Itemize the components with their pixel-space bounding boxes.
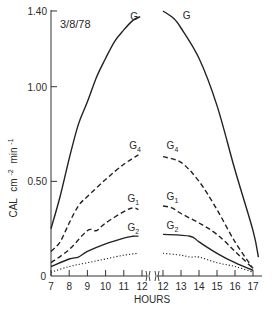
x-tick-label: 16 [229, 281, 241, 292]
svg-text:CAL cm -2: CAL cm -2 min -1 [4, 138, 19, 217]
x-tick-label: 8 [66, 281, 72, 292]
series-label-g1: G1 [167, 191, 179, 204]
series-label-g2: G2 [167, 220, 179, 233]
y-tick-label: 1.40 [28, 6, 48, 17]
y-label-exp2: -1 [7, 138, 14, 144]
series-label-g1: G1 [127, 193, 139, 206]
x-tick-label: 14 [193, 281, 205, 292]
y-axis-label: CAL cm -2 min -1 [4, 138, 19, 217]
y-label-unit1: cm [8, 178, 19, 191]
curve-g2-right [163, 234, 253, 270]
y-tick-label: 0 [40, 271, 46, 282]
y-tick-label: 1.00 [28, 82, 48, 93]
x-tick-label: 17 [247, 281, 259, 292]
curve-g1-right [163, 206, 253, 268]
x-axis-label: HOURS [134, 294, 170, 305]
curve-g2-left [51, 236, 138, 266]
x-tick-label: 12 [136, 281, 148, 292]
x-tick-label: 15 [211, 281, 223, 292]
x-tick-label: 7 [48, 281, 54, 292]
chart-svg: 00.501.001.40789101112121314151617 GGG4G… [0, 0, 272, 310]
curves [51, 11, 258, 272]
series-label-g4: G4 [129, 140, 141, 153]
curve-g-right [163, 11, 258, 257]
labels: GGG4G4G1G1G2G2 [127, 10, 190, 235]
curve-g4-left [51, 155, 138, 252]
x-tick-label: 9 [85, 281, 91, 292]
y-label-unit2: min [8, 147, 19, 163]
y-label-exp1: -2 [7, 169, 14, 175]
series-label-g2: G2 [127, 222, 139, 235]
x-tick-label: 10 [100, 281, 112, 292]
axes: 00.501.001.40789101112121314151617 [28, 6, 262, 292]
solar-radiation-chart: 00.501.001.40789101112121314151617 GGG4G… [0, 0, 272, 310]
x-tick-label: 12 [157, 281, 169, 292]
x-tick-label: 11 [119, 281, 130, 292]
series-label-g: G [130, 11, 138, 22]
x-tick-label: 13 [175, 281, 187, 292]
y-tick-label: 0.50 [28, 176, 48, 187]
date-annotation: 3/8/78 [60, 18, 91, 30]
curve-dotted-left [51, 253, 138, 272]
series-label-g: G [183, 10, 191, 21]
series-label-g4: G4 [167, 140, 179, 153]
y-label-main: CAL [8, 198, 19, 218]
curve-g4-right [163, 157, 253, 269]
